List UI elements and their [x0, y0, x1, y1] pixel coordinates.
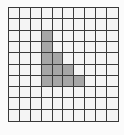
grid-cell-empty [74, 19, 85, 30]
grid-cell-empty [9, 8, 20, 19]
grid-cell-empty [74, 110, 85, 121]
grid-cell-empty [63, 31, 74, 42]
grid-cell-empty [107, 8, 118, 19]
grid-cell-empty [53, 98, 64, 109]
grid-cell-empty [20, 110, 31, 121]
grid-cell-empty [96, 19, 107, 30]
grid-cell-filled [42, 53, 53, 64]
grid-cell-empty [53, 8, 64, 19]
grid-cell-empty [31, 87, 42, 98]
grid-cell-empty [42, 19, 53, 30]
grid-cell-empty [20, 19, 31, 30]
grid-cell-filled [42, 76, 53, 87]
grid-cell-empty [9, 31, 20, 42]
square-grid [8, 7, 119, 122]
grid-cell-empty [74, 87, 85, 98]
grid-cell-empty [74, 31, 85, 42]
grid-cell-empty [63, 110, 74, 121]
grid-cell-empty [96, 65, 107, 76]
grid-cell-empty [9, 42, 20, 53]
grid-cell-empty [53, 19, 64, 30]
grid-cell-empty [63, 8, 74, 19]
grid-cell-empty [96, 31, 107, 42]
grid-cell-empty [20, 87, 31, 98]
grid-cell-empty [107, 65, 118, 76]
grid-cell-empty [20, 53, 31, 64]
grid-cell-empty [9, 65, 20, 76]
grid-cell-empty [31, 42, 42, 53]
grid-cell-empty [20, 98, 31, 109]
grid-cell-empty [53, 31, 64, 42]
grid-cell-empty [9, 110, 20, 121]
grid-cell-filled [63, 65, 74, 76]
grid-cell-empty [53, 87, 64, 98]
grid-cell-empty [107, 53, 118, 64]
grid-cell-empty [63, 53, 74, 64]
grid-cell-filled [53, 53, 64, 64]
grid-cell-empty [107, 42, 118, 53]
grid-cell-empty [85, 110, 96, 121]
grid-cell-empty [31, 8, 42, 19]
grid-cell-empty [9, 87, 20, 98]
grid-cell-empty [74, 8, 85, 19]
grid-cell-empty [107, 110, 118, 121]
grid-cell-empty [107, 87, 118, 98]
diagram-canvas [0, 0, 124, 135]
grid-cell-empty [74, 98, 85, 109]
grid-cell-empty [96, 53, 107, 64]
grid-cell-empty [85, 65, 96, 76]
grid-cell-empty [63, 98, 74, 109]
grid-cell-empty [96, 8, 107, 19]
grid-cell-empty [63, 19, 74, 30]
grid-cell-empty [9, 53, 20, 64]
grid-cell-empty [20, 31, 31, 42]
grid-cell-empty [31, 19, 42, 30]
grid-cell-empty [20, 65, 31, 76]
grid-cell-empty [31, 31, 42, 42]
grid-cell-empty [63, 42, 74, 53]
grid-cell-empty [85, 98, 96, 109]
grid-cell-filled [53, 76, 64, 87]
grid-cell-empty [63, 87, 74, 98]
grid-cell-empty [31, 76, 42, 87]
grid-cell-empty [74, 65, 85, 76]
grid-cell-empty [9, 19, 20, 30]
grid-cell-empty [85, 8, 96, 19]
grid-cell-empty [20, 42, 31, 53]
grid-cell-empty [20, 76, 31, 87]
grid-cell-empty [96, 110, 107, 121]
grid-cell-empty [31, 110, 42, 121]
grid-cell-empty [85, 42, 96, 53]
grid-cell-empty [96, 87, 107, 98]
grid-cell-empty [31, 53, 42, 64]
grid-cell-empty [107, 98, 118, 109]
grid-cell-empty [42, 98, 53, 109]
grid-cell-empty [20, 8, 31, 19]
grid-cell-filled [42, 31, 53, 42]
grid-cell-empty [85, 53, 96, 64]
grid-cell-empty [96, 76, 107, 87]
grid-cell-empty [107, 76, 118, 87]
grid-cell-empty [85, 19, 96, 30]
grid-cell-empty [42, 8, 53, 19]
grid-cell-empty [53, 42, 64, 53]
grid-cell-empty [85, 31, 96, 42]
grid-cell-filled [53, 65, 64, 76]
grid-cell-empty [107, 19, 118, 30]
grid-cell-empty [107, 31, 118, 42]
grid-cell-filled [42, 65, 53, 76]
grid-cell-empty [42, 87, 53, 98]
grid-cell-empty [85, 76, 96, 87]
grid-cell-filled [42, 42, 53, 53]
grid-cell-empty [31, 65, 42, 76]
grid-cell-empty [96, 98, 107, 109]
grid-cell-empty [85, 87, 96, 98]
grid-cell-empty [96, 42, 107, 53]
grid-cell-empty [31, 98, 42, 109]
grid-cell-empty [42, 110, 53, 121]
grid-cell-filled [74, 76, 85, 87]
grid-cell-filled [63, 76, 74, 87]
grid-cell-empty [74, 53, 85, 64]
grid-cell-empty [9, 76, 20, 87]
grid-cell-empty [9, 98, 20, 109]
